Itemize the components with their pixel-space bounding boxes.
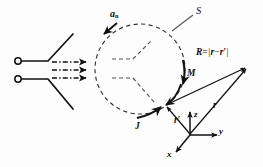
- terminal-top: [15, 58, 21, 64]
- label-axis-x: x: [167, 150, 172, 159]
- interior-lower-arm: [112, 78, 155, 103]
- label-surface-S: S: [196, 6, 201, 17]
- label-axis-z: z: [194, 110, 198, 119]
- label-magnetic-current-M: M: [187, 69, 195, 79]
- vector-R: [166, 68, 245, 105]
- interior-upper-arm: [112, 40, 152, 59]
- label-R-equation: R=|r−r′|: [196, 48, 229, 58]
- r-prime-tick: ′: [178, 115, 181, 125]
- wave-propagation-arrows: [52, 62, 86, 78]
- physics-figure: an S M J R=|r−r′| r r′ z y x: [0, 0, 263, 167]
- label-axis-y: y: [219, 127, 223, 136]
- interior-horn-dashed: [112, 40, 155, 103]
- figure-canvas: [0, 0, 263, 167]
- normal-vector-arrow: [104, 23, 117, 34]
- electric-current-arrow: [137, 107, 161, 118]
- label-vector-r: r: [213, 101, 217, 111]
- label-vector-r-prime: r′: [174, 116, 180, 126]
- surface-label-leader: [172, 15, 193, 31]
- label-normal-vector: an: [110, 9, 118, 20]
- horn-antenna: [15, 34, 73, 109]
- terminal-bottom: [15, 76, 21, 82]
- label-electric-current-J: J: [135, 122, 140, 132]
- equals-sign: =: [202, 47, 207, 57]
- normal-vector-subscript: n: [115, 12, 118, 19]
- axis-x: [176, 135, 190, 152]
- horn-lower-arm: [21, 79, 73, 109]
- vector-r: [190, 69, 246, 134]
- horn-upper-arm: [21, 34, 73, 61]
- magnetic-current-arrow: [183, 60, 185, 84]
- abs-bar-close: |: [226, 47, 229, 57]
